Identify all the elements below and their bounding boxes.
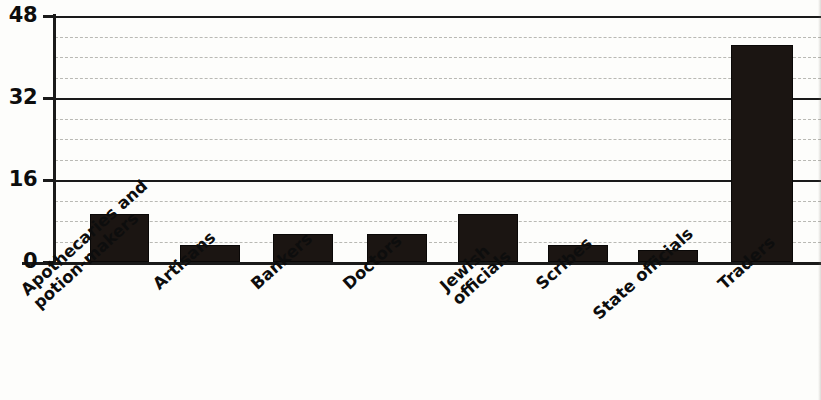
y-axis-tick — [43, 97, 55, 100]
y-axis-tick-label: 48 — [0, 5, 37, 26]
x-axis-line — [22, 262, 821, 265]
y-axis-tick-label: 16 — [0, 169, 37, 190]
y-axis-tick — [43, 179, 55, 182]
plot-area — [55, 16, 821, 262]
bar — [731, 45, 793, 262]
bar-series — [55, 16, 821, 262]
x-axis-tick-labels: Apothecaries andpotion-makersArtisansBan… — [0, 268, 821, 400]
bar-chart: 4832160 Apothecaries andpotion-makersArt… — [0, 0, 821, 400]
y-axis-tick-label: 32 — [0, 87, 37, 108]
y-axis-tick — [43, 15, 55, 18]
y-axis-line — [53, 14, 56, 264]
